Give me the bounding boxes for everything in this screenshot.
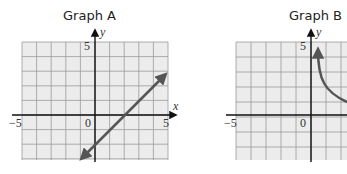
- graph-a: −5 0 5 5 y x: [9, 25, 179, 162]
- graphs-canvas: −5 0 5 5 y x −5 0 5 y: [0, 0, 347, 174]
- graph-a-x-axis-label: x: [172, 99, 179, 113]
- graph-b-y-max-label: 5: [300, 39, 306, 53]
- graph-b: −5 0 5 y: [224, 25, 347, 162]
- graph-a-y-axis-label: y: [99, 25, 106, 39]
- graph-a-x-min-label: −5: [9, 116, 22, 130]
- graph-b-x-min-label: −5: [224, 116, 237, 130]
- graph-b-y-axis-label: y: [315, 25, 322, 39]
- graph-a-x-max-label: 5: [163, 116, 169, 130]
- graph-b-origin-label: 0: [300, 116, 306, 130]
- graph-b-grid-bg: [236, 42, 347, 160]
- graph-a-origin-label: 0: [85, 116, 91, 130]
- graph-a-y-max-label: 5: [84, 39, 90, 53]
